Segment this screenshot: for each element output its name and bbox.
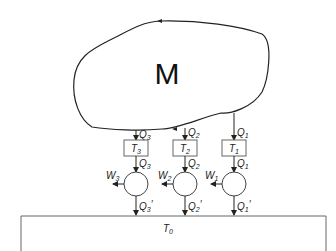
engine-3: Q3 T3 Q3 W3 Q3′ [106,129,154,215]
engine-1: Q1 T1 Q1 W1 Q1′ [205,113,252,215]
w3-label: W3 [106,170,119,182]
q1-in-label: Q1 [237,127,249,139]
engine-2: Q2 T2 Q2 W2 Q2′ [158,127,203,215]
q3-mid-label: Q3 [139,158,151,170]
heat-engine-diagram: M Q3 T3 Q3 W3 Q3′ Q2 T2 Q2 W2 Q2′ Q1 T1 … [0,0,336,251]
cycle-arrow-top [157,19,162,23]
cold-reservoir [21,216,326,251]
q3-in-label: Q3 [139,129,151,141]
engine-circle-3 [124,172,148,196]
engine-circle-2 [173,172,197,196]
w2-label: W2 [158,170,171,182]
q2-out-label: Q2′ [188,199,203,213]
t0-label: T0 [163,223,173,235]
q1-out-label: Q1′ [237,199,252,213]
q1-mid-label: Q1 [237,158,249,170]
w1-label: W1 [205,170,218,182]
q2-mid-label: Q2 [188,158,200,170]
q3-out-label: Q3′ [139,199,154,213]
reservoir-label: M [155,57,180,90]
q2-in-label: Q2 [188,127,200,139]
engine-circle-1 [222,172,246,196]
